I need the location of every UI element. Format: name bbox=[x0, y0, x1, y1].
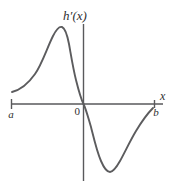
derivative-curve bbox=[12, 27, 153, 172]
graph-canvas: h′(x) x 0 a b bbox=[0, 0, 171, 183]
right-endpoint-label: b bbox=[153, 106, 159, 118]
function-label: h′(x) bbox=[63, 8, 87, 23]
origin-label: 0 bbox=[75, 105, 81, 117]
left-endpoint-label: a bbox=[8, 108, 14, 120]
derivative-graph-figure: h′(x) x 0 a b bbox=[0, 0, 171, 183]
x-axis-label: x bbox=[159, 89, 166, 103]
